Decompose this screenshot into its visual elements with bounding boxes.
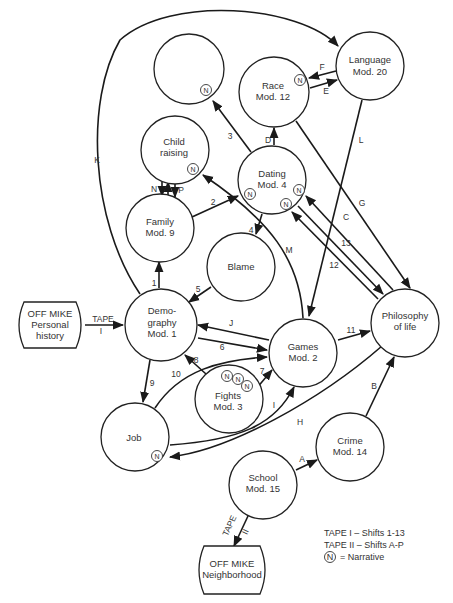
edge-label-5: 5 — [196, 284, 201, 294]
narrative-icon: N — [295, 75, 306, 86]
node-demography[interactable]: Demo- graphy Mod. 1 — [125, 289, 197, 361]
svg-text:N: N — [235, 376, 240, 383]
legend: TAPE I – Shifts 1-13 TAPE II – Shifts A-… — [324, 528, 405, 563]
narrative-icon: N — [242, 381, 253, 392]
edge-label-l: L — [359, 135, 364, 145]
edge-label-b: B — [371, 381, 377, 391]
svg-text:N: N — [296, 187, 301, 194]
node-family-label1: Family — [146, 216, 174, 227]
node-school-label1: School — [248, 472, 277, 483]
edge-label-tape1: TAPE — [92, 314, 114, 324]
node-philosophy-label1: Philosophy — [382, 310, 429, 321]
edge-label-m: M — [285, 245, 292, 255]
edge-f — [309, 71, 336, 78]
node-school[interactable]: School Mod. 15 — [229, 451, 297, 519]
narrative-icon: N — [281, 199, 292, 210]
node-crime[interactable]: Crime Mod. 14 — [316, 413, 384, 481]
edge-label-g: G — [359, 198, 366, 208]
box-offmike-neighborhood[interactable]: OFF MIKE Neighborhood — [199, 546, 265, 594]
node-family-label2: Mod. 9 — [145, 227, 174, 238]
svg-text:N: N — [297, 77, 302, 84]
edge-label-n: N — [151, 184, 157, 194]
edge-label-3: 3 — [228, 131, 233, 141]
svg-text:N: N — [203, 87, 208, 94]
node-child-raising[interactable]: Child raising — [141, 116, 209, 184]
svg-text:N: N — [224, 373, 229, 380]
edge-label-i: I — [273, 400, 275, 410]
edge-label-d: D — [265, 135, 271, 145]
edge-j — [198, 325, 269, 340]
edge-12 — [292, 212, 378, 299]
narrative-icon: N — [201, 85, 212, 96]
edge-label-tape2-sub: II — [240, 527, 251, 536]
svg-text:N: N — [247, 191, 252, 198]
node-family[interactable]: Family Mod. 9 — [126, 194, 194, 262]
edge-label-tape1-sub: I — [100, 326, 102, 336]
edge-label-9: 9 — [150, 378, 155, 388]
svg-text:N: N — [190, 166, 195, 173]
node-language-label1: Language — [349, 54, 391, 65]
edge-label-e: E — [323, 86, 329, 96]
box-offmike-neighborhood-label1: OFF MIKE — [210, 558, 255, 569]
node-race-label2: Mod. 12 — [256, 91, 290, 102]
node-philosophy[interactable]: Philosophy of life — [371, 289, 439, 357]
node-child-raising-label1: Child — [163, 136, 185, 147]
node-fights-label1: Fights — [215, 390, 241, 401]
legend-tape1: TAPE I – Shifts 1-13 — [324, 528, 405, 538]
narrative-icon: N — [233, 374, 244, 385]
box-offmike-personal-label2: Personal — [31, 319, 69, 330]
box-offmike-personal-label1: OFF MIKE — [28, 308, 73, 319]
node-child-raising-label2: raising — [160, 147, 188, 158]
edge-label-6: 6 — [220, 342, 225, 352]
node-language[interactable]: Language Mod. 20 — [336, 32, 404, 100]
legend-narrative-icon: N — [325, 552, 336, 563]
edge-label-f: F — [319, 62, 324, 72]
edge-label-c: C — [343, 212, 349, 222]
svg-text:N: N — [154, 453, 159, 460]
edge-4 — [256, 214, 262, 234]
edge-label-a: A — [299, 454, 305, 464]
narrative-icon: N — [245, 189, 256, 200]
edge-label-k: K — [94, 155, 100, 165]
edge-label-p: P — [178, 185, 184, 195]
node-crime-label2: Mod. 14 — [333, 446, 367, 457]
edge-label-1: 1 — [152, 278, 157, 288]
node-demography-label2: graphy — [147, 317, 176, 328]
node-games-label2: Mod. 2 — [288, 352, 317, 363]
box-offmike-personal[interactable]: OFF MIKE Personal history — [19, 302, 81, 348]
node-school-label2: Mod. 15 — [246, 483, 280, 494]
node-race[interactable]: Race Mod. 12 — [239, 57, 309, 127]
narrative-icon: N — [152, 451, 163, 462]
edge-label-tape2: TAPE — [220, 514, 238, 538]
node-job-label: Job — [126, 432, 141, 443]
edge-label-2: 2 — [211, 197, 216, 207]
node-empty-top[interactable] — [154, 34, 224, 104]
node-dating-label2: Mod. 4 — [257, 179, 286, 190]
svg-text:N: N — [327, 552, 334, 562]
node-demography-label1: Demo- — [148, 305, 177, 316]
node-games-label1: Games — [288, 341, 319, 352]
legend-narrative-label: = Narrative — [340, 552, 384, 562]
box-offmike-personal-label3: history — [36, 330, 64, 341]
box-offmike-neighborhood-label2: Neighborhood — [202, 569, 262, 580]
edge-label-8: 8 — [194, 355, 199, 365]
node-race-label1: Race — [262, 80, 284, 91]
svg-text:N: N — [244, 383, 249, 390]
node-blame[interactable]: Blame — [207, 233, 275, 301]
node-games[interactable]: Games Mod. 2 — [269, 319, 337, 387]
node-dating[interactable]: Dating Mod. 4 — [238, 146, 306, 214]
node-fights-label2: Mod. 3 — [213, 401, 242, 412]
node-dating-label1: Dating — [258, 168, 285, 179]
edge-label-12: 12 — [329, 260, 339, 270]
narrative-icon: N — [294, 185, 305, 196]
node-philosophy-label2: of life — [394, 321, 417, 332]
svg-text:N: N — [283, 201, 288, 208]
node-language-label2: Mod. 20 — [353, 66, 387, 77]
edge-6 — [198, 338, 267, 350]
edge-label-13: 13 — [341, 238, 351, 248]
node-blame-label: Blame — [228, 261, 255, 272]
legend-tape2: TAPE II – Shifts A-P — [324, 540, 404, 550]
node-crime-label1: Crime — [337, 435, 362, 446]
edge-label-10: 10 — [171, 369, 181, 379]
edge-13 — [298, 206, 383, 294]
